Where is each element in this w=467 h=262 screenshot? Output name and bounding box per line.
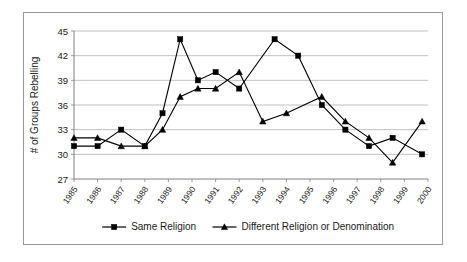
y-tick-label: 45 bbox=[57, 26, 68, 37]
triangle-marker-icon bbox=[236, 69, 242, 75]
square-marker-icon bbox=[71, 144, 76, 149]
y-axis-title-text: # of Groups Rebelling bbox=[29, 57, 40, 154]
series-1 bbox=[71, 37, 424, 157]
y-tick-label: 27 bbox=[57, 174, 68, 185]
x-tick-label: 1996 bbox=[320, 184, 339, 205]
square-marker-icon bbox=[390, 135, 395, 140]
square-marker-icon bbox=[319, 102, 324, 107]
square-marker-icon bbox=[178, 37, 183, 42]
x-tick-label: 1990 bbox=[179, 184, 198, 205]
square-marker-icon bbox=[420, 152, 425, 157]
x-tick-label: 1995 bbox=[297, 184, 316, 205]
x-tick-label: 1999 bbox=[391, 184, 410, 205]
triangle-marker-icon bbox=[366, 135, 372, 141]
chart-legend: Same ReligionDifferent Religion or Denom… bbox=[102, 221, 394, 232]
y-tick-label: 33 bbox=[57, 124, 68, 135]
x-tick-label: 2000 bbox=[415, 184, 434, 205]
triangle-marker-icon bbox=[283, 110, 289, 116]
x-tick-label: 1987 bbox=[108, 184, 127, 205]
series-2 bbox=[71, 69, 426, 165]
y-tick-label: 30 bbox=[57, 149, 68, 160]
line-chart: 27303336394245 1985198619871988198919901… bbox=[24, 13, 442, 244]
legend-label: Different Religion or Denomination bbox=[241, 221, 394, 232]
chart-frame: 27303336394245 1985198619871988198919901… bbox=[23, 12, 443, 245]
square-marker-icon bbox=[119, 127, 124, 132]
square-marker-icon bbox=[195, 78, 200, 83]
legend-item: Different Religion or Denomination bbox=[212, 221, 394, 232]
x-tick-label: 1998 bbox=[367, 184, 386, 205]
square-marker-icon bbox=[95, 144, 100, 149]
square-marker-icon bbox=[112, 224, 117, 229]
triangle-marker-icon bbox=[319, 94, 325, 100]
x-tick-label: 1997 bbox=[344, 184, 363, 205]
square-marker-icon bbox=[213, 70, 218, 75]
square-marker-icon bbox=[296, 53, 301, 58]
square-marker-icon bbox=[343, 127, 348, 132]
series-line bbox=[74, 72, 422, 162]
square-marker-icon bbox=[366, 144, 371, 149]
x-tick-label: 1985 bbox=[61, 184, 80, 205]
gridlines bbox=[74, 31, 428, 154]
square-marker-icon bbox=[237, 86, 242, 91]
y-tick-label: 36 bbox=[57, 100, 68, 111]
square-marker-icon bbox=[272, 37, 277, 42]
y-tick-label: 39 bbox=[57, 75, 68, 86]
x-tick-label: 1989 bbox=[155, 184, 174, 205]
x-tick-label: 1994 bbox=[273, 184, 292, 205]
x-tick-label: 1992 bbox=[226, 184, 245, 205]
x-axis-tick-labels: 1985198619871988198919901991199219931994… bbox=[61, 184, 434, 205]
y-axis-tick-labels: 27303336394245 bbox=[57, 26, 68, 185]
y-axis-title: # of Groups Rebelling bbox=[29, 57, 40, 154]
legend-label: Same Religion bbox=[131, 221, 196, 232]
triangle-marker-icon bbox=[177, 94, 183, 100]
legend-item: Same Religion bbox=[102, 221, 196, 232]
x-tick-label: 1988 bbox=[131, 184, 150, 205]
square-marker-icon bbox=[160, 111, 165, 116]
x-tick-label: 1991 bbox=[202, 184, 221, 205]
x-tick-label: 1986 bbox=[84, 184, 103, 205]
y-tick-label: 42 bbox=[57, 50, 68, 61]
x-tick-label: 1993 bbox=[249, 184, 268, 205]
triangle-marker-icon bbox=[419, 118, 425, 124]
